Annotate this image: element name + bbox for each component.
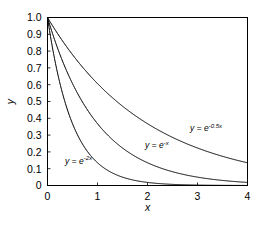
label-exp-one-text: y = e-x [144,140,170,150]
exponential-decay-line-chart: 01234 00.10.20.30.40.50.60.70.80.91.0 y … [0,0,263,227]
y-axis-title: y [4,98,16,105]
label-exp-two: y = e-2x [64,155,93,165]
y-tick-label: 0.9 [27,28,42,40]
y-tick-label: 0.1 [27,163,42,175]
y-tick-label: 0.4 [27,112,42,124]
y-tick-label: 0.7 [27,62,42,74]
x-tick-label: 1 [95,190,101,202]
label-exp-one: y = e-x [144,140,170,150]
x-tick-label: 2 [145,190,151,202]
y-tick-label: 1.0 [27,11,42,23]
y-tick-label: 0.2 [27,146,42,158]
label-exp-two-exponent: -2x [84,155,93,161]
x-axis-tick-labels: 01234 [45,190,251,202]
y-tick-label: 0.3 [27,129,42,141]
label-exp-one-base: y = e [144,140,164,150]
label-exp-two-text: y = e-2x [64,155,93,165]
label-exp-half-exponent: -0.5x [209,123,223,129]
chart-figure: 01234 00.10.20.30.40.50.60.70.80.91.0 y … [0,0,263,227]
y-tick-label: 0.6 [27,79,42,91]
label-exp-half: y = e-0.5x [189,123,223,133]
label-exp-half-base: y = e [189,123,209,133]
x-tick-label: 4 [245,190,251,202]
x-tick-label: 0 [45,190,51,202]
y-tick-label: 0.5 [27,95,42,107]
x-axis-title: x [144,201,151,213]
x-tick-label: 3 [195,190,201,202]
y-tick-label: 0.8 [27,45,42,57]
label-exp-one-exponent: -x [164,140,170,146]
y-tick-label: 0 [36,179,42,191]
curve-annotations: y = e-0.5xy = e-xy = e-2x [64,123,223,166]
label-exp-two-base: y = e [64,156,84,166]
y-axis-tick-labels: 00.10.20.30.40.50.60.70.80.91.0 [27,11,42,191]
label-exp-half-text: y = e-0.5x [189,123,223,133]
